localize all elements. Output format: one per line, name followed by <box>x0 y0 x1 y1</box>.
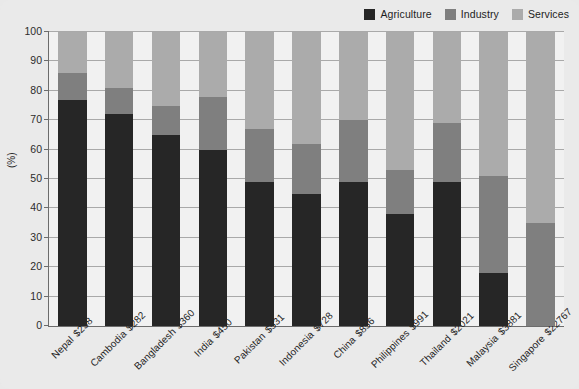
bar-segment-services <box>199 32 228 97</box>
chart-legend: Agriculture Industry Services <box>364 8 569 20</box>
stacked-bar-bangladesh[interactable] <box>152 32 181 326</box>
bar-slot <box>377 32 424 326</box>
x-label-slot: Singapore$22767 <box>517 329 564 389</box>
bar-slot <box>49 32 96 326</box>
bar-segment-agriculture <box>292 194 321 326</box>
stacked-bar-malaysia[interactable] <box>479 32 508 326</box>
x-label-country: India <box>192 335 215 358</box>
bar-segment-industry <box>433 123 462 182</box>
y-tick-label: 50 <box>30 172 42 184</box>
stacked-bar-indonesia[interactable] <box>292 32 321 326</box>
x-label-slot: Malaysia$3881 <box>470 329 517 389</box>
y-tick-mark <box>44 119 49 120</box>
y-gridline: 90 <box>49 60 564 61</box>
bar-segment-agriculture <box>339 182 368 326</box>
y-tick-label: 60 <box>30 143 42 155</box>
bar-segment-services <box>479 32 508 176</box>
y-tick-mark <box>44 149 49 150</box>
bar-slot <box>470 32 517 326</box>
y-tick-mark <box>44 207 49 208</box>
x-label-slot: Philippines$991 <box>376 329 423 389</box>
bar-segment-industry <box>58 73 87 99</box>
x-label-country: Pakistan <box>232 330 267 365</box>
x-label-country: Thailand <box>417 333 452 368</box>
bar-slot <box>283 32 330 326</box>
bar-slot <box>236 32 283 326</box>
x-label-slot: India$450 <box>189 329 236 389</box>
bar-segment-services <box>245 32 274 129</box>
bar-segment-agriculture <box>152 135 181 326</box>
bar-segment-agriculture <box>386 214 415 326</box>
y-tick-mark <box>44 237 49 238</box>
stacked-bar-india[interactable] <box>199 32 228 326</box>
stacked-bar-singapore[interactable] <box>526 32 555 326</box>
x-label-slot: Cambodia$282 <box>95 329 142 389</box>
stacked-bar-thailand[interactable] <box>433 32 462 326</box>
bar-segment-agriculture <box>245 182 274 326</box>
bar-segment-agriculture <box>479 273 508 326</box>
y-tick-label: 30 <box>30 231 42 243</box>
y-tick-mark <box>44 325 49 326</box>
y-tick-label: 40 <box>30 201 42 213</box>
stacked-bar-china[interactable] <box>339 32 368 326</box>
bar-segment-industry <box>152 106 181 135</box>
bar-slot <box>330 32 377 326</box>
stacked-bar-nepal[interactable] <box>58 32 87 326</box>
y-tick-label: 70 <box>30 113 42 125</box>
bar-segment-services <box>433 32 462 123</box>
x-axis-labels: Nepal$238Cambodia$282Bangladesh$360India… <box>48 329 564 389</box>
stacked-bar-philippines[interactable] <box>386 32 415 326</box>
y-gridline: 40 <box>49 207 564 208</box>
x-label-country: Cambodia <box>88 328 129 369</box>
x-label-slot: Indonesia$728 <box>283 329 330 389</box>
x-label-country: China <box>331 334 358 361</box>
legend-swatch-industry <box>445 9 456 20</box>
legend-entry-industry[interactable]: Industry <box>445 8 499 20</box>
y-tick-label: 80 <box>30 84 42 96</box>
y-gridline: 50 <box>49 178 564 179</box>
bar-segment-services <box>152 32 181 106</box>
bar-segment-industry <box>245 129 274 182</box>
legend-label-industry: Industry <box>461 8 499 20</box>
bar-segment-industry <box>292 144 321 194</box>
y-tick-label: 100 <box>24 25 42 37</box>
y-gridline: 60 <box>49 149 564 150</box>
legend-swatch-agriculture <box>364 9 375 20</box>
bar-segment-industry <box>105 88 134 114</box>
stacked-bars <box>49 32 564 326</box>
bar-segment-industry <box>479 176 508 273</box>
bar-slot <box>189 32 236 326</box>
legend-entry-agriculture[interactable]: Agriculture <box>364 8 431 20</box>
x-label-country: Indonesia <box>277 329 316 368</box>
y-tick-mark <box>44 60 49 61</box>
bar-segment-services <box>292 32 321 144</box>
legend-swatch-services <box>512 9 523 20</box>
bar-segment-industry <box>526 223 555 326</box>
bar-slot <box>517 32 564 326</box>
bar-slot <box>424 32 471 326</box>
x-label-slot: Pakistan$531 <box>236 329 283 389</box>
y-tick-label: 0 <box>36 319 42 331</box>
x-label-country: Malaysia <box>464 332 500 368</box>
bar-slot <box>143 32 190 326</box>
legend-label-services: Services <box>528 8 569 20</box>
legend-entry-services[interactable]: Services <box>512 8 569 20</box>
x-label-slot: Bangladesh$360 <box>142 329 189 389</box>
y-tick-mark <box>44 31 49 32</box>
y-gridline: 80 <box>49 90 564 91</box>
y-gridline: 70 <box>49 119 564 120</box>
chart-screenshot: Agriculture Industry Services (%) 010203… <box>0 0 579 389</box>
x-label-slot: China$856 <box>329 329 376 389</box>
stacked-bar-pakistan[interactable] <box>245 32 274 326</box>
y-tick-label: 10 <box>30 290 42 302</box>
stacked-bar-cambodia[interactable] <box>105 32 134 326</box>
y-tick-label: 20 <box>30 260 42 272</box>
chart-plot-area: 0102030405060708090100 <box>48 32 564 327</box>
y-gridline: 20 <box>49 266 564 267</box>
bar-slot <box>96 32 143 326</box>
x-label-country: Nepal <box>50 334 77 361</box>
bar-segment-industry <box>199 97 228 150</box>
bar-segment-agriculture <box>433 182 462 326</box>
y-tick-mark <box>44 178 49 179</box>
x-label-slot: Thailand$2021 <box>423 329 470 389</box>
